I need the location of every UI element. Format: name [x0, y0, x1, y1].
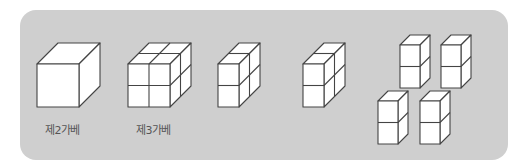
split-columns [378, 35, 471, 144]
gift-2-cube [37, 43, 100, 107]
column-3 [378, 91, 408, 144]
gift-3-cube [128, 43, 191, 107]
split-half-a [218, 43, 260, 107]
column-1 [400, 35, 430, 88]
column-4 [420, 91, 450, 144]
cube-diagrams [0, 0, 532, 168]
gift-2-label: 제2가베 [45, 121, 80, 137]
column-2 [441, 35, 471, 88]
gift-3-label: 제3가베 [136, 121, 171, 137]
split-half-b [303, 43, 345, 107]
